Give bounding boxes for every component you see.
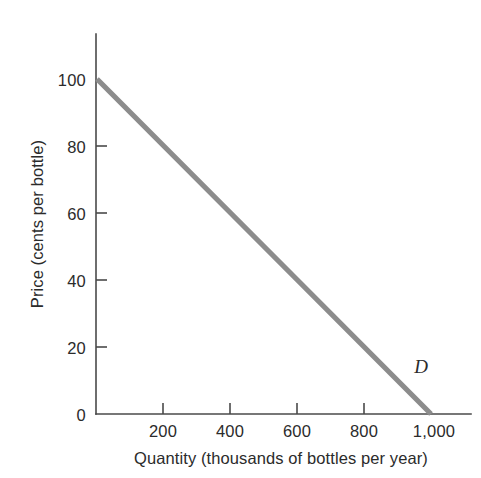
chart-canvas: D 100 80 60 40 20 0 200 400 600 800 1,00…: [0, 0, 481, 478]
demand-curve-label: D: [413, 356, 428, 377]
x-tick-label-1000: 1,000: [413, 422, 455, 440]
y-tick-label-20: 20: [67, 339, 86, 357]
x-tick-marks: [163, 403, 364, 414]
x-tick-label-400: 400: [216, 422, 244, 440]
demand-curve-line: [97, 79, 431, 414]
y-tick-labels: 100 80 60 40 20 0: [58, 71, 86, 424]
y-tick-label-100: 100: [58, 71, 86, 89]
x-tick-labels: 200 400 600 800 1,000: [149, 422, 455, 440]
y-tick-marks: [96, 146, 107, 347]
y-tick-label-60: 60: [67, 205, 86, 223]
x-tick-label-800: 800: [350, 422, 378, 440]
x-tick-label-200: 200: [149, 422, 177, 440]
y-tick-label-40: 40: [67, 272, 86, 290]
y-tick-label-0: 0: [77, 406, 86, 424]
y-axis-title: Price (cents per bottle): [28, 140, 46, 308]
y-tick-label-80: 80: [67, 138, 86, 156]
x-axis-title: Quantity (thousands of bottles per year): [134, 449, 428, 467]
x-tick-label-600: 600: [283, 422, 311, 440]
demand-curve-figure: D 100 80 60 40 20 0 200 400 600 800 1,00…: [0, 0, 481, 478]
